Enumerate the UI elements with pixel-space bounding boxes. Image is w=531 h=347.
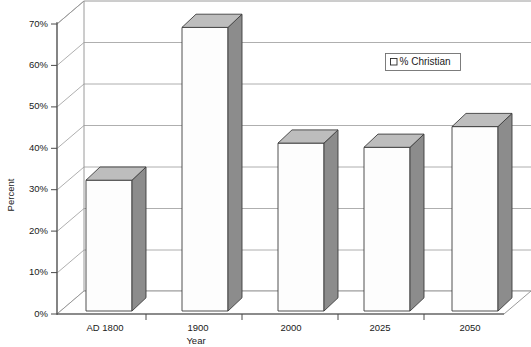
bar-front-2050[interactable] (452, 127, 498, 311)
y-tick-label-40: 40% (29, 142, 49, 153)
y-tick-label-70: 70% (29, 18, 49, 29)
bar-chart-3d: 0% 10% 20% 30% 40% 50% 60% 70% Percent (0, 0, 531, 347)
bar-side-2025 (410, 134, 424, 311)
bar-front-ad-1800[interactable] (86, 180, 132, 311)
legend-swatch-christian (391, 59, 398, 66)
y-axis: 0% 10% 20% 30% 40% 50% 60% 70% (29, 18, 57, 319)
x-axis-title: Year (186, 335, 205, 346)
y-tick-label-50: 50% (29, 100, 49, 111)
x-tick-label-1900: 1900 (187, 322, 208, 333)
bar-group-1900[interactable] (182, 14, 242, 311)
chart-container: 0% 10% 20% 30% 40% 50% 60% 70% Percent (0, 0, 531, 347)
bar-front-2025[interactable] (364, 147, 410, 311)
bar-side-2000 (324, 130, 338, 311)
bar-front-1900[interactable] (182, 27, 228, 311)
y-tick-label-20: 20% (29, 225, 49, 236)
bar-group-2025[interactable] (364, 134, 424, 311)
y-tick-label-0: 0% (34, 308, 48, 319)
y-tick-label-30: 30% (29, 183, 49, 194)
bar-side-ad-1800 (132, 167, 146, 311)
y-tick-label-10: 10% (29, 266, 49, 277)
bar-front-2000[interactable] (278, 143, 324, 311)
x-axis: AD 1800 1900 2000 2025 2050 (57, 314, 504, 333)
x-tick-label-2025: 2025 (369, 322, 390, 333)
y-tick-label-60: 60% (29, 59, 49, 70)
bar-group-ad-1800[interactable] (86, 167, 146, 311)
legend-label-christian: % Christian (400, 56, 451, 67)
bar-side-1900 (228, 14, 242, 311)
bar-group-2000[interactable] (278, 130, 338, 311)
x-tick-label-ad-1800: AD 1800 (87, 322, 124, 333)
bar-side-2050 (498, 113, 512, 311)
y-axis-title: Percent (5, 178, 16, 211)
x-tick-label-2050: 2050 (459, 322, 480, 333)
x-tick-label-2000: 2000 (280, 322, 301, 333)
bar-group-2050[interactable] (452, 113, 512, 311)
legend[interactable]: % Christian (386, 54, 461, 71)
